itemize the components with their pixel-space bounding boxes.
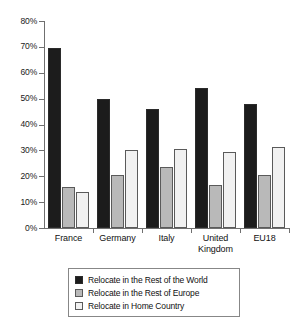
legend-label-rest-of-world: Relocate in the Rest of the World xyxy=(88,275,208,285)
y-axis-tick-label-text: 10% xyxy=(3,198,37,207)
bar-group xyxy=(93,21,142,228)
bar xyxy=(244,104,257,228)
legend-swatch-icon-home-country xyxy=(75,302,83,310)
bar xyxy=(258,175,271,228)
bar xyxy=(62,187,75,228)
x-axis-category-label-line: Kingdom xyxy=(191,244,240,255)
y-axis-tick-label: 10% xyxy=(0,198,37,207)
y-axis-tick-label-text: 80% xyxy=(3,17,37,26)
x-axis-category-label: UnitedKingdom xyxy=(191,233,240,255)
bar xyxy=(111,175,124,228)
bar xyxy=(48,48,61,228)
y-axis-tick-label: 0% xyxy=(0,224,37,233)
x-axis-category-label-line: United xyxy=(191,233,240,244)
y-axis-tick-label: 20% xyxy=(0,172,37,181)
x-axis-category-label: France xyxy=(44,233,93,244)
x-axis-category-label-line: France xyxy=(44,233,93,244)
x-axis-category-label-line: Italy xyxy=(142,233,191,244)
bar xyxy=(223,152,236,228)
y-axis-tick-label-text: 70% xyxy=(3,42,37,51)
y-axis-tick-label: 50% xyxy=(0,94,37,103)
y-axis-tick-label: 80% xyxy=(0,17,37,26)
y-axis-tick-label-text: 0% xyxy=(3,224,37,233)
x-axis-end-tick xyxy=(289,228,290,233)
y-axis-tick-label-text: 50% xyxy=(3,94,37,103)
bar xyxy=(174,149,187,228)
bar xyxy=(195,88,208,228)
bar-chart: 0%10%20%30%40%50%60%70%80% FranceGermany… xyxy=(0,0,303,336)
bar-group xyxy=(44,21,93,228)
x-axis-category-label-line: EU18 xyxy=(240,233,289,244)
bar xyxy=(146,109,159,228)
y-axis-tick-label: 40% xyxy=(0,120,37,129)
bar-group xyxy=(142,21,191,228)
x-axis-category-label: EU18 xyxy=(240,233,289,244)
bar xyxy=(272,147,285,229)
y-axis-tick-label: 60% xyxy=(0,68,37,77)
x-axis-category-label: Italy xyxy=(142,233,191,244)
x-axis-category-label: Germany xyxy=(93,233,142,244)
bar xyxy=(160,167,173,228)
bar xyxy=(97,99,110,228)
bar xyxy=(209,185,222,228)
legend-label-home-country: Relocate in Home Country xyxy=(88,301,184,311)
y-axis-tick-label: 70% xyxy=(0,42,37,51)
y-axis-tick-label: 30% xyxy=(0,146,37,155)
y-axis-tick-label-text: 40% xyxy=(3,120,37,129)
bar-group xyxy=(191,21,240,228)
bar xyxy=(76,192,89,228)
x-axis-category-label-line: Germany xyxy=(93,233,142,244)
bar xyxy=(125,150,138,228)
legend-swatch-icon-rest-of-europe xyxy=(75,289,83,297)
bars-layer xyxy=(44,0,289,229)
y-axis-tick-label-text: 30% xyxy=(3,146,37,155)
legend-item-home-country: Relocate in Home Country xyxy=(75,299,234,312)
chart-legend: Relocate in the Rest of the World Reloca… xyxy=(68,268,240,317)
legend-item-rest-of-world: Relocate in the Rest of the World xyxy=(75,273,234,286)
legend-item-rest-of-europe: Relocate in the Rest of Europe xyxy=(75,286,234,299)
y-axis-tick-label-text: 60% xyxy=(3,68,37,77)
y-axis-tick-label-text: 20% xyxy=(3,172,37,181)
legend-swatch-icon-rest-of-world xyxy=(75,276,83,284)
legend-label-rest-of-europe: Relocate in the Rest of Europe xyxy=(88,288,199,298)
bar-group xyxy=(240,21,289,228)
plot-area: 0%10%20%30%40%50%60%70%80% FranceGermany… xyxy=(0,0,303,265)
